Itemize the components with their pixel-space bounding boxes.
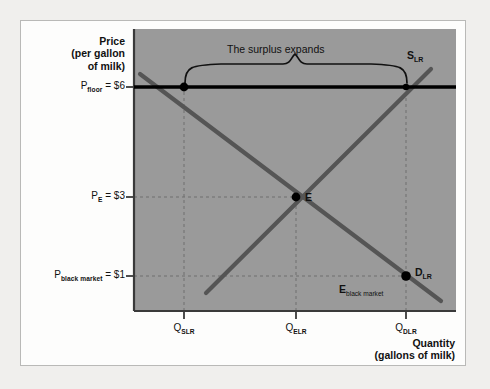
x-tick-label-qd: QDLR [386, 322, 426, 336]
dot-floor-supply-left [180, 83, 189, 92]
y-tick-label-black-market-price: Pblack market = $1 [19, 269, 125, 283]
black-market-subscript: black market [346, 290, 383, 297]
demand-curve-symbol: D [415, 266, 423, 278]
y-tick-value: = $3 [105, 190, 125, 201]
x-tick-subscript: DLR [403, 328, 417, 335]
demand-curve-subscript: LR [423, 273, 432, 280]
x-tick-subscript: ELR [293, 328, 306, 335]
dot-floor-supply-right [403, 84, 409, 90]
x-tick-marks [184, 311, 406, 319]
supply-curve-symbol: S [407, 49, 414, 61]
dot-equilibrium [292, 193, 301, 202]
black-market-point-label: Eblack market [339, 283, 383, 298]
black-market-symbol: E [339, 283, 346, 295]
dot-black-market [401, 271, 411, 281]
y-tick-marks [126, 87, 134, 276]
y-tick-value: = $6 [105, 80, 125, 91]
y-axis-title-line2: (per gallon [25, 47, 125, 59]
y-axis-title-line3: of milk) [25, 60, 125, 72]
y-tick-label-equilibrium-price: PE = $3 [39, 190, 125, 204]
x-axis-title: Quantity (gallons of milk) [321, 337, 455, 362]
y-tick-subscript: E [98, 196, 103, 203]
y-tick-subscript: black market [61, 275, 103, 282]
y-axis-title-line1: Price [25, 35, 125, 47]
plot-background [134, 29, 456, 311]
y-tick-label-price-floor: Pfloor = $6 [39, 80, 125, 94]
equilibrium-symbol: E [305, 191, 312, 203]
supply-curve-subscript: LR [414, 56, 423, 63]
equilibrium-point-label: E [305, 191, 312, 203]
y-tick-symbol: P [91, 190, 98, 201]
y-tick-subscript: floor [87, 86, 102, 93]
x-axis-title-line1: Quantity [321, 337, 455, 349]
figure-card: Price (per gallon of milk) Pfloor = $6 P… [20, 20, 466, 366]
x-tick-label-qs: QSLR [164, 322, 204, 336]
y-tick-value: = $1 [105, 269, 125, 280]
supply-curve-label: SLR [407, 49, 423, 64]
demand-curve-label: DLR [415, 266, 432, 281]
x-axis-title-line2: (gallons of milk) [321, 349, 455, 361]
y-tick-symbol: P [54, 269, 61, 280]
x-tick-subscript: SLR [181, 328, 194, 335]
surplus-annotation-text: The surplus expands [227, 43, 324, 55]
surplus-annotation: The surplus expands [227, 43, 324, 55]
supply-demand-chart: Price (per gallon of milk) Pfloor = $6 P… [21, 21, 467, 367]
x-tick-symbol: Q [395, 322, 403, 333]
y-axis-title: Price (per gallon of milk) [25, 35, 125, 72]
x-tick-label-qe: QELR [276, 322, 316, 336]
